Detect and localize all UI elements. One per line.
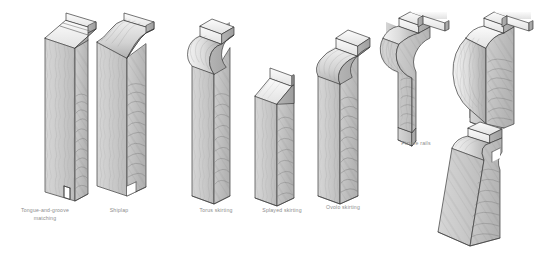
caption-torus-skirting: Torus skirting <box>186 206 246 214</box>
moulding-profiles-plate: Tongue-and-groove matching Shiplap Torus… <box>0 0 535 260</box>
caption-tongue-and-groove-matching: Tongue-and-groove matching <box>13 206 77 222</box>
figure-picture-rail-cavetto <box>380 12 449 146</box>
figure-splayed-skirting <box>255 68 294 206</box>
caption-splayed-skirting: Splayed skirting <box>250 206 314 214</box>
caption-picture-rails: Picture rails <box>390 139 442 147</box>
caption-shiplap: Shiplap <box>96 206 142 214</box>
figure-picture-rail-rounded <box>438 122 502 246</box>
figure-torus-skirting <box>188 19 235 204</box>
figure-picture-rail-bullnose <box>453 12 533 128</box>
figure-shiplap <box>97 13 154 196</box>
figure-ovolo-skirting <box>316 30 370 204</box>
moulding-illustrations <box>0 0 535 260</box>
caption-ovolo-skirting: Ovolo skirting <box>312 203 374 211</box>
figure-tongue-and-groove-matching <box>45 13 96 201</box>
